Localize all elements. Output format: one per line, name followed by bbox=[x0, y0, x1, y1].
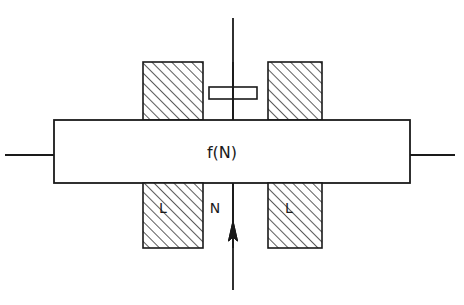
lower-left-block-label: L bbox=[159, 200, 167, 216]
force-bar-label: f(N) bbox=[207, 143, 237, 162]
upper-left-hatched-block bbox=[143, 62, 203, 120]
lower-right-hatched-block: L bbox=[268, 183, 322, 248]
lower-right-block-label: L bbox=[285, 200, 293, 216]
diagram-canvas: f(N) L N L bbox=[0, 0, 464, 305]
lower-center-column: N bbox=[210, 200, 220, 216]
upper-right-hatched-block bbox=[268, 62, 322, 120]
technical-diagram: f(N) L N L bbox=[0, 0, 464, 305]
force-bar: f(N) bbox=[54, 120, 410, 183]
lower-left-hatched-block: L bbox=[143, 183, 203, 248]
lower-center-column-label: N bbox=[210, 200, 220, 216]
